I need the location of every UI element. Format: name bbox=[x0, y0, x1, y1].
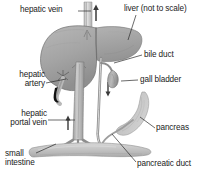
small-intestine bbox=[29, 143, 151, 157]
label-liver: liver (not to scale) bbox=[124, 4, 187, 13]
gall-bladder bbox=[108, 70, 119, 88]
label-pancreatic-duct: pancreatic duct bbox=[137, 159, 191, 168]
label-hepatic-vein: hepatic vein bbox=[20, 5, 63, 14]
label-bile-duct: bile duct bbox=[144, 50, 174, 59]
label-hepatic-artery-line2: artery bbox=[25, 79, 45, 88]
portal-vein-flow-arrow-icon bbox=[66, 116, 71, 131]
label-small-intestine-line2: intestine bbox=[5, 158, 35, 167]
vena-cava-flow-arrow-icon bbox=[93, 5, 99, 22]
label-small-intestine-line1: small bbox=[5, 149, 24, 158]
anatomy-figure: hepatic vein liver (not to scale) bile d… bbox=[0, 0, 203, 182]
label-small-intestine: small intestine bbox=[5, 149, 35, 168]
label-hepatic-portal-vein-line2: portal vein bbox=[10, 118, 47, 127]
label-hepatic-portal-vein-line1: hepatic bbox=[21, 109, 47, 118]
label-hepatic-artery: hepatic artery bbox=[0, 70, 45, 89]
label-pancreas: pancreas bbox=[156, 123, 189, 132]
label-hepatic-portal-vein: hepatic portal vein bbox=[0, 109, 47, 128]
label-gall-bladder: gall bladder bbox=[140, 75, 181, 84]
leader-gall-bladder bbox=[121, 80, 138, 81]
label-hepatic-artery-line1: hepatic bbox=[19, 70, 45, 79]
